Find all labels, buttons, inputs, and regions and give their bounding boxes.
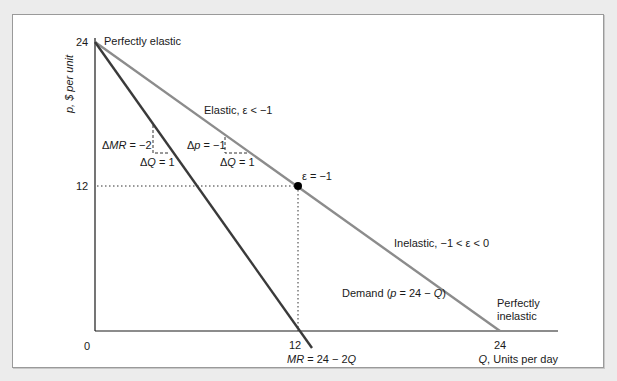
label-unit-elastic: ε = −1 xyxy=(302,170,332,182)
chart-svg: p, $ per unit 24 12 0 12 24 Q, Units per… xyxy=(0,0,617,381)
label-perfectly: Perfectly xyxy=(497,297,540,309)
label-delta-mr: ΔMR = −2 xyxy=(102,139,152,151)
label-perfectly-elastic: Perfectly elastic xyxy=(104,35,182,47)
label-inelastic-word: inelastic xyxy=(497,310,537,322)
x-axis-title: Q, Units per day xyxy=(479,353,559,365)
y-axis-title: p, $ per unit xyxy=(63,54,75,114)
label-delta-q-demand: ΔQ = 1 xyxy=(220,156,255,168)
mr-line xyxy=(95,42,312,348)
x-tick-0: 0 xyxy=(84,340,90,352)
y-tick-12: 12 xyxy=(76,180,88,192)
x-tick-24: 24 xyxy=(494,339,506,351)
demand-slope-triangle xyxy=(225,137,247,153)
x-tick-12: 12 xyxy=(289,339,301,351)
label-elastic: Elastic, ε < −1 xyxy=(204,104,273,116)
unit-elastic-point xyxy=(294,182,302,190)
label-demand: Demand (p = 24 − Q) xyxy=(342,287,446,299)
label-delta-q-mr: ΔQ = 1 xyxy=(140,156,175,168)
label-mr: MR = 24 − 2Q xyxy=(287,353,357,365)
y-tick-24: 24 xyxy=(76,36,88,48)
label-delta-p: Δp = −1 xyxy=(187,139,226,151)
label-inelastic: Inelastic, −1 < ε < 0 xyxy=(394,237,489,249)
